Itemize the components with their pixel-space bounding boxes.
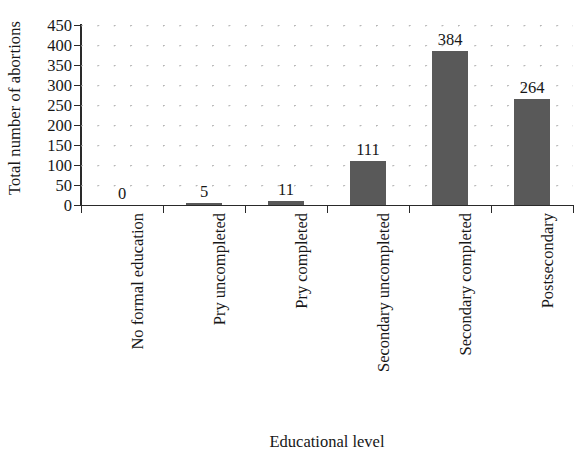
bar bbox=[432, 51, 467, 205]
x-axis-title: Educational level bbox=[81, 432, 573, 452]
x-axis-category-label: Pry completed bbox=[293, 213, 311, 413]
x-axis-tick-mark bbox=[81, 206, 82, 213]
y-axis-tick-mark bbox=[74, 145, 81, 146]
x-axis-category-label: Pry uncompleted bbox=[211, 213, 229, 413]
bar bbox=[268, 201, 303, 205]
y-axis-tick-label: 100 bbox=[47, 158, 72, 175]
y-axis-tick-label: 0 bbox=[64, 198, 72, 215]
bars-container: 0511111384264 bbox=[81, 25, 573, 205]
bar-value-label: 0 bbox=[82, 186, 162, 203]
bar-value-label: 5 bbox=[164, 184, 244, 201]
x-axis-tick-mark bbox=[327, 206, 328, 213]
y-axis-title: Total number of abortions bbox=[0, 0, 30, 215]
bar-value-label: 11 bbox=[246, 182, 326, 199]
y-axis-tick-mark bbox=[74, 165, 81, 166]
y-axis-tick-label: 50 bbox=[56, 178, 73, 195]
x-axis-tick-mark bbox=[245, 206, 246, 213]
y-axis-tick-mark bbox=[74, 85, 81, 86]
y-axis-tick-label: 150 bbox=[47, 138, 72, 155]
y-axis-tick-mark bbox=[74, 45, 81, 46]
y-axis-tick-mark bbox=[74, 185, 81, 186]
y-axis-tick-label: 350 bbox=[47, 58, 72, 75]
plot-area: 0511111384264 bbox=[81, 25, 573, 205]
y-axis-tick-labels: 450400350300250200150100500 bbox=[30, 0, 76, 215]
y-axis-tick-label: 300 bbox=[47, 78, 72, 95]
x-axis-category-label: Secondary completed bbox=[457, 213, 475, 413]
x-axis-tick-mark bbox=[491, 206, 492, 213]
x-axis-category-label: Secondary uncompleted bbox=[375, 213, 393, 413]
y-axis-tick-label: 400 bbox=[47, 38, 72, 55]
x-axis-tick-mark bbox=[409, 206, 410, 213]
bar bbox=[514, 99, 549, 205]
bar-value-label: 264 bbox=[492, 80, 572, 97]
y-axis-tick-mark bbox=[74, 65, 81, 66]
y-axis-tick-mark bbox=[74, 25, 81, 26]
y-axis-tick-mark bbox=[74, 125, 81, 126]
x-axis-category-label: Postsecondary bbox=[539, 213, 557, 413]
x-axis-tick-mark bbox=[163, 206, 164, 213]
x-axis-category-label: No formal education bbox=[129, 213, 147, 413]
bar-value-label: 384 bbox=[410, 32, 490, 49]
bar-chart-figure: Total number of abortions 45040035030025… bbox=[0, 0, 585, 464]
x-axis-tick-mark bbox=[573, 206, 574, 213]
y-axis-tick-label: 450 bbox=[47, 18, 72, 35]
y-axis-tick-label: 200 bbox=[47, 118, 72, 135]
y-axis-tick-label: 250 bbox=[47, 98, 72, 115]
bar bbox=[350, 161, 385, 205]
bar-value-label: 111 bbox=[328, 142, 408, 159]
bar bbox=[186, 203, 221, 205]
y-axis-title-text: Total number of abortions bbox=[5, 20, 25, 194]
x-axis-category-labels: No formal educationPry uncompletedPry co… bbox=[81, 213, 573, 413]
y-axis-tick-mark bbox=[74, 105, 81, 106]
y-axis-tick-mark bbox=[74, 205, 81, 206]
